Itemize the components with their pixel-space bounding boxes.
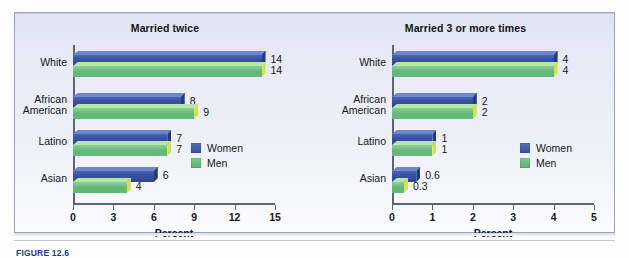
- bar-value-label: 7: [176, 144, 182, 155]
- x-tick: [392, 205, 393, 210]
- bar-face: [392, 182, 404, 193]
- x-tick-label: 6: [151, 211, 157, 223]
- bar-men-african-american: [73, 108, 194, 119]
- legend-item-men[interactable]: Men: [520, 156, 572, 169]
- bar-top-face: [392, 104, 478, 108]
- x-tick-label: 5: [591, 211, 597, 223]
- x-tick: [594, 205, 595, 210]
- chart-title-right: Married 3 or more times: [315, 22, 616, 34]
- bar-top-face: [73, 104, 199, 108]
- bar-men-white: [392, 66, 554, 77]
- x-tick-label: 4: [551, 211, 557, 223]
- legend-item-women[interactable]: Women: [191, 141, 243, 154]
- bar-men-latino: [73, 145, 167, 156]
- legend-swatch-women: [520, 143, 530, 153]
- bar-men-asian: [73, 182, 127, 193]
- legend-label: Men: [536, 157, 556, 169]
- x-tick: [235, 205, 236, 210]
- legend-label: Women: [207, 142, 243, 154]
- category-label: Asian: [360, 173, 386, 184]
- plot-area-left: Percent 03691215White1414AfricanAmerican…: [73, 45, 295, 215]
- x-tick-label: 12: [229, 211, 241, 223]
- legend-label: Women: [536, 142, 572, 154]
- category-label: Latino: [38, 136, 67, 147]
- legend-item-men[interactable]: Men: [191, 156, 243, 169]
- bar-face: [73, 145, 167, 156]
- x-tick-label: 1: [429, 211, 435, 223]
- figure-caption-label: FIGURE 12.6: [16, 248, 69, 258]
- bar-top-face: [73, 93, 185, 97]
- bar-men-asian: [392, 182, 404, 193]
- plot-area-right: Percent 012345White44AfricanAmerican22La…: [392, 45, 614, 215]
- bar-value-label: 4: [563, 65, 569, 76]
- bar-value-label: 1: [441, 144, 447, 155]
- chart-legend: WomenMen: [520, 141, 572, 171]
- legend-swatch-men: [191, 158, 201, 168]
- x-tick: [73, 205, 74, 210]
- bar-top-face: [73, 51, 266, 55]
- x-axis-title-right: Percent: [392, 227, 594, 239]
- x-tick: [554, 205, 555, 210]
- category-label: Asian: [41, 173, 67, 184]
- bar-value-label: 0.3: [413, 181, 428, 192]
- category-label: AfricanAmerican: [342, 94, 386, 116]
- x-axis-left: [73, 203, 275, 205]
- chart-plate: Married twice Percent 03691215White1414A…: [14, 12, 615, 233]
- x-axis-title-left: Percent: [73, 227, 275, 239]
- bar-face: [73, 108, 194, 119]
- figure-container: Married twice Percent 03691215White1414A…: [0, 0, 629, 258]
- bar-men-latino: [392, 145, 432, 156]
- chart-title-left: Married twice: [15, 22, 315, 34]
- x-tick-label: 3: [110, 211, 116, 223]
- bar-top-face: [392, 141, 437, 145]
- x-tick: [473, 205, 474, 210]
- chart-legend: WomenMen: [191, 141, 243, 171]
- bar-top-face: [73, 62, 266, 66]
- legend-item-women[interactable]: Women: [520, 141, 572, 154]
- bar-top-face: [73, 167, 159, 171]
- bar-face: [392, 145, 432, 156]
- category-label: Latino: [357, 136, 386, 147]
- bar-value-label: 2: [482, 107, 488, 118]
- bar-value-label: 9: [203, 107, 209, 118]
- x-tick: [194, 205, 195, 210]
- bar-top-face: [73, 178, 132, 182]
- x-tick-label: 0: [70, 211, 76, 223]
- x-tick-label: 9: [191, 211, 197, 223]
- bar-top-face: [73, 130, 172, 134]
- chart-panel-married-twice: Married twice Percent 03691215White1414A…: [15, 13, 315, 234]
- bar-value-label: 6: [163, 170, 169, 181]
- bar-value-label: 4: [136, 181, 142, 192]
- x-tick: [513, 205, 514, 210]
- x-tick-label: 3: [510, 211, 516, 223]
- bar-men-african-american: [392, 108, 473, 119]
- bar-value-label: 14: [271, 65, 283, 76]
- bar-top-face: [392, 62, 558, 66]
- legend-swatch-men: [520, 158, 530, 168]
- bar-top-face: [392, 130, 437, 134]
- bar-face: [392, 66, 554, 77]
- x-tick: [154, 205, 155, 210]
- category-label: White: [359, 57, 386, 68]
- bar-top-face: [392, 93, 478, 97]
- legend-swatch-women: [191, 143, 201, 153]
- x-tick: [432, 205, 433, 210]
- bar-face: [73, 66, 262, 77]
- figure-caption: FIGURE 12.6: [16, 248, 616, 258]
- x-tick-label: 2: [470, 211, 476, 223]
- bar-face: [392, 108, 473, 119]
- bar-face: [73, 182, 127, 193]
- bar-men-white: [73, 66, 262, 77]
- category-label: White: [40, 57, 67, 68]
- x-tick: [275, 205, 276, 210]
- x-tick: [113, 205, 114, 210]
- x-tick-label: 15: [269, 211, 281, 223]
- x-tick-label: 0: [389, 211, 395, 223]
- bar-top-face: [392, 51, 558, 55]
- bar-top-face: [392, 167, 421, 171]
- legend-label: Men: [207, 157, 227, 169]
- category-label: AfricanAmerican: [23, 94, 67, 116]
- caption-rule: [14, 240, 615, 241]
- bar-top-face: [73, 141, 172, 145]
- x-axis-right: [392, 203, 594, 205]
